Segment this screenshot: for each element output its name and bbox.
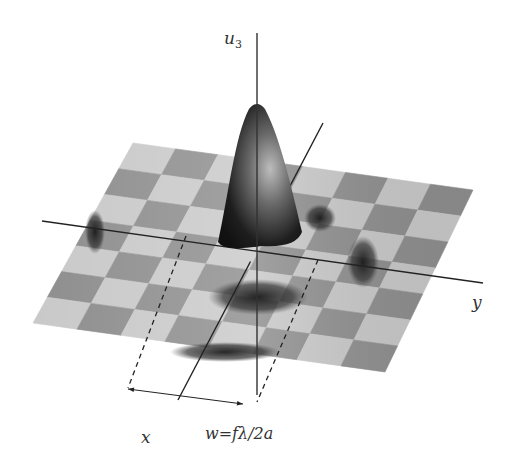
surface-dip [347, 236, 379, 288]
surface-diagram [0, 0, 513, 465]
u3-axis-label: u3 [224, 28, 242, 51]
width-formula-label: w=fλ/2a [205, 424, 273, 443]
surface-dip [304, 204, 336, 232]
arrow-head-right [237, 401, 243, 405]
x-axis-label: x [141, 427, 151, 447]
surface-dip [170, 342, 280, 362]
width-arrow [128, 389, 243, 404]
surface-dip [208, 279, 308, 315]
arrow-head-left [128, 388, 134, 392]
surface-dip [85, 210, 105, 254]
y-axis-label: y [472, 292, 482, 312]
